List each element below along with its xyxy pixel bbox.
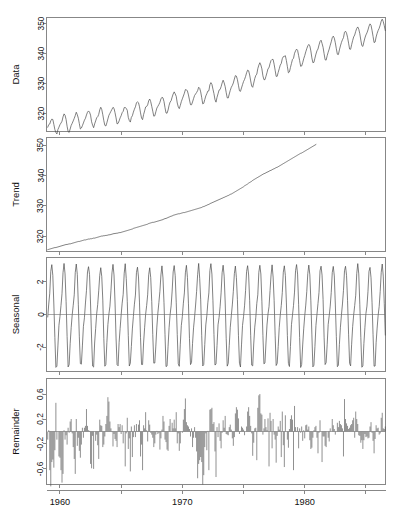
- panel-ylabel-data: Data: [10, 64, 21, 85]
- xtick-label-0: 1960: [50, 497, 70, 507]
- series-trend: [48, 144, 316, 249]
- panel-frame-trend: [47, 138, 386, 252]
- series-seasonal: [48, 263, 386, 367]
- ytick-label-data-3: 350: [36, 16, 46, 30]
- ytick-label-trend-2: 340: [36, 168, 46, 182]
- ytick-label-seasonal-1: 0: [36, 312, 46, 317]
- ytick-label-data-2: 340: [36, 46, 46, 60]
- ytick-label-data-0: 320: [36, 106, 46, 120]
- ytick-label-trend-0: 320: [36, 229, 46, 243]
- ytick-label-remainder-2: -0.2: [36, 436, 46, 451]
- ytick-label-data-1: 330: [36, 76, 46, 90]
- panel-ylabel-remainder: Remainder: [10, 408, 21, 454]
- stl-decomposition-figure: 320330340350Data320330340350Trend20-2Sea…: [0, 0, 401, 521]
- ytick-label-trend-1: 330: [36, 199, 46, 213]
- series-remainder: [48, 394, 386, 486]
- ytick-label-remainder-3: -0.6: [36, 461, 46, 476]
- xtick-label-1: 1970: [172, 497, 192, 507]
- series-data: [48, 19, 386, 134]
- panel-frame-data: [47, 18, 386, 132]
- ytick-label-seasonal-2: -2: [36, 343, 46, 351]
- ytick-label-remainder-0: 0.6: [36, 388, 46, 400]
- ytick-label-remainder-1: 0.2: [36, 413, 46, 425]
- chart-canvas: 320330340350Data320330340350Trend20-2Sea…: [0, 0, 401, 521]
- xtick-label-2: 1980: [295, 497, 315, 507]
- panel-ylabel-seasonal: Seasonal: [10, 295, 21, 335]
- panel-ylabel-trend: Trend: [10, 182, 21, 206]
- ytick-label-trend-3: 350: [36, 138, 46, 152]
- ytick-label-seasonal-0: 2: [36, 279, 46, 284]
